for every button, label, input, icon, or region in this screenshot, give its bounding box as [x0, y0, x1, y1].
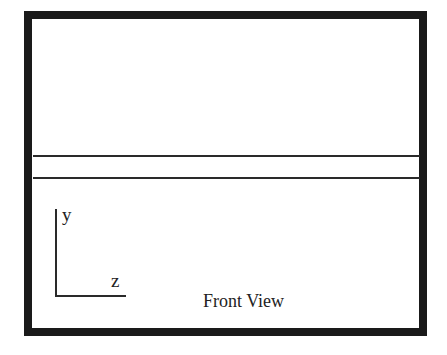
- view-frame: [24, 11, 427, 336]
- upper-horizontal-line: [33, 155, 420, 157]
- y-axis-label: y: [62, 205, 72, 224]
- z-axis-label: z: [111, 271, 119, 290]
- y-axis-line: [55, 209, 57, 297]
- view-title: Front View: [203, 292, 284, 310]
- z-axis-line: [55, 295, 126, 297]
- lower-horizontal-line: [33, 177, 420, 179]
